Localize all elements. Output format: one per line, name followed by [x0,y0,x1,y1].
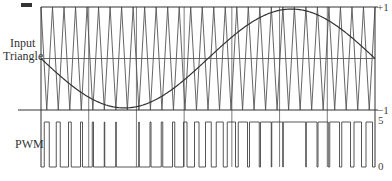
label-pwm: PWM [15,138,44,151]
tick-five: 5 [378,115,384,126]
pwm-chart [0,0,392,181]
tick-zero: 0 [378,161,384,172]
label-triangle: Triangle [3,50,43,63]
legend-marker-icon [21,3,32,7]
pwm-waveform [41,122,375,167]
tick-plus-one: +1 [377,2,389,13]
